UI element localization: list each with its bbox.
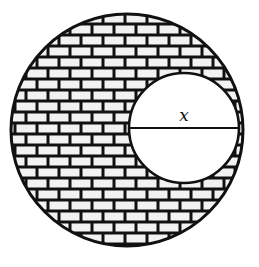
shaded-circles-diagram: x	[0, 0, 259, 267]
diameter-label: x	[179, 105, 189, 125]
